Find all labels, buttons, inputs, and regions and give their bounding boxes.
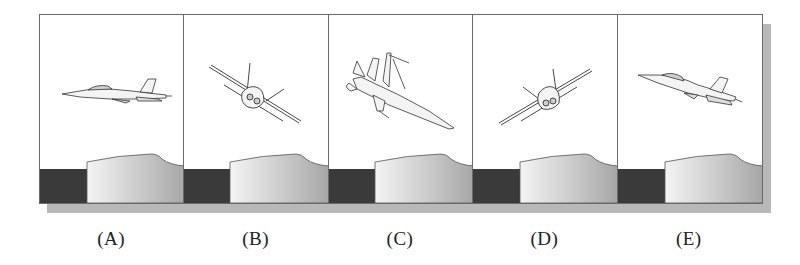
- scene-c: [329, 15, 473, 203]
- terrain-mound: [87, 154, 184, 203]
- panel-label-c: (C): [328, 228, 472, 250]
- scene-b: [184, 15, 328, 203]
- panel-label-d: (D): [472, 228, 616, 250]
- panel-strip: [39, 14, 763, 204]
- fighter-jet-icon: [346, 53, 454, 129]
- terrain-mound: [520, 154, 617, 203]
- panel-c: [329, 15, 473, 203]
- dark-ground-block: [473, 169, 520, 203]
- panel-label-b: (B): [183, 228, 327, 250]
- scene-a: [40, 15, 184, 203]
- dark-ground-block: [329, 169, 375, 203]
- panel-labels: (A) (B) (C) (D) (E): [39, 228, 761, 250]
- dark-ground-block: [618, 169, 665, 203]
- panel-b: [184, 15, 328, 203]
- dark-ground-block: [184, 169, 230, 203]
- fighter-jet-icon: [209, 63, 301, 123]
- panel-a: [40, 15, 184, 203]
- panel-label-a: (A): [39, 228, 183, 250]
- fighter-jet-icon: [499, 69, 592, 125]
- panel-label-e: (E): [617, 228, 761, 250]
- scene-e: [618, 15, 762, 203]
- panel-d: [473, 15, 617, 203]
- fighter-jet-icon: [638, 73, 742, 105]
- dark-ground-block: [40, 169, 87, 203]
- panel-e: [618, 15, 762, 203]
- terrain-mound: [230, 154, 328, 203]
- fighter-jet-icon: [62, 79, 172, 103]
- scene-d: [473, 15, 617, 203]
- terrain-mound: [665, 154, 762, 203]
- terrain-mound: [375, 154, 473, 203]
